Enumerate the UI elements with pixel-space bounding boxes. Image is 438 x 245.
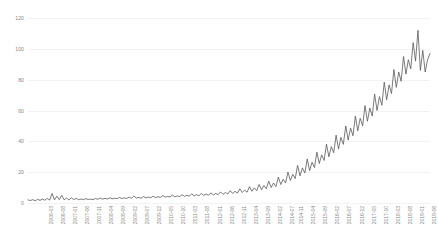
series-polyline [28, 30, 430, 201]
x-tick-label: 2012-01 [217, 206, 223, 224]
x-tick-label: 2016-12 [359, 206, 365, 224]
x-tick-label: 2006-08 [60, 206, 66, 224]
x-tick-label: 2017-05 [371, 206, 377, 224]
x-tick-label: 2008-09 [121, 206, 127, 224]
x-tick-label: 2019-01 [419, 206, 425, 224]
x-tick-label: 2008-04 [109, 206, 115, 224]
chart-container: 020406080100120 2006-032006-082007-01200… [0, 0, 438, 245]
x-tick-label: 2012-11 [241, 206, 247, 224]
x-tick-label: 2014-02 [277, 206, 283, 224]
x-tick-label: 2009-07 [145, 206, 151, 224]
x-tick-label: 2018-08 [407, 206, 413, 224]
x-tick-label: 2019-06 [431, 206, 437, 224]
x-tick-label: 2015-04 [311, 206, 317, 224]
x-tick-label: 2014-11 [298, 206, 304, 224]
x-tick-label: 2012-06 [229, 206, 235, 224]
x-tick-label: 2016-07 [347, 206, 353, 224]
x-tick-label: 2007-01 [72, 206, 78, 224]
x-tick-label: 2010-05 [169, 206, 175, 224]
x-tick-label: 2013-04 [253, 206, 259, 224]
x-tick-label: 2011-03 [192, 206, 198, 224]
x-tick-label: 2009-12 [157, 206, 163, 224]
x-tick-label: 2013-09 [265, 206, 271, 224]
x-tick-label: 2006-03 [48, 206, 54, 224]
x-tick-label: 2014-07 [289, 206, 295, 224]
x-tick-label: 2007-11 [96, 206, 102, 224]
x-tick-label: 2010-10 [181, 206, 187, 224]
x-tick-label: 2007-06 [84, 206, 90, 224]
x-tick-label: 2011-08 [204, 206, 210, 224]
x-tick-label: 2016-02 [335, 206, 341, 224]
x-tick-label: 2017-10 [383, 206, 389, 224]
x-tick-label: 2009-02 [133, 206, 139, 224]
x-tick-label: 2015-09 [323, 206, 329, 224]
x-tick-label: 2018-03 [395, 206, 401, 224]
plot-area: 020406080100120 2006-032006-082007-01200… [0, 0, 438, 245]
